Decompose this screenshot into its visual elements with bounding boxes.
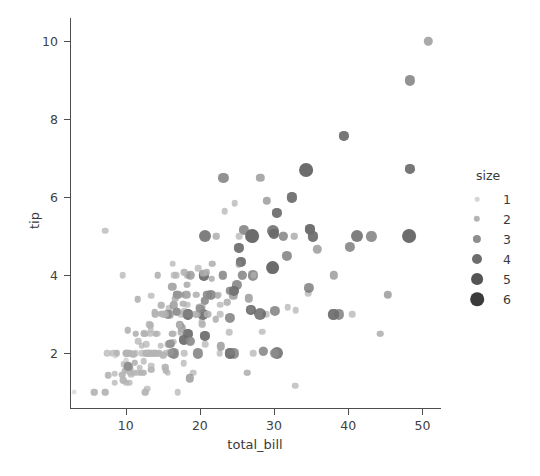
scatter-point	[136, 365, 143, 372]
scatter-point	[213, 233, 220, 240]
y-tick-mark	[64, 353, 70, 354]
scatter-point	[282, 251, 292, 261]
legend-entry[interactable]: 4	[462, 249, 532, 269]
scatter-point	[193, 291, 200, 298]
scatter-point	[111, 379, 118, 386]
scatter-point	[256, 174, 264, 182]
scatter-point	[272, 208, 282, 218]
scatter-point	[344, 242, 354, 252]
legend-marker-icon	[470, 292, 484, 306]
scatter-point	[156, 350, 163, 357]
scatter-point	[180, 301, 187, 308]
scatter-point	[160, 311, 167, 318]
scatter-point	[106, 372, 113, 379]
scatter-point	[162, 311, 169, 318]
legend-entry[interactable]: 1	[462, 189, 532, 209]
scatter-point	[162, 364, 169, 371]
scatter-point	[122, 367, 129, 374]
y-tick-label: 8	[0, 112, 58, 127]
scatter-point	[134, 296, 141, 303]
scatter-point	[180, 360, 187, 367]
scatter-point	[200, 331, 210, 341]
scatter-point	[141, 370, 148, 377]
scatter-point	[181, 350, 188, 357]
scatter-point	[104, 372, 111, 379]
scatter-point	[235, 261, 242, 268]
scatter-point	[208, 275, 215, 282]
scatter-point	[126, 379, 133, 386]
scatter-point	[205, 311, 212, 318]
scatter-point	[166, 340, 174, 348]
scatter-point	[153, 331, 160, 338]
scatter-point	[339, 131, 349, 141]
y-axis-label: tip	[27, 181, 42, 261]
scatter-point	[208, 275, 215, 282]
scatter-point	[228, 349, 235, 356]
scatter-point	[148, 292, 155, 299]
scatter-point	[173, 307, 181, 315]
scatter-point	[151, 350, 158, 357]
scatter-point	[328, 309, 338, 319]
scatter-point	[167, 350, 174, 357]
scatter-point	[308, 231, 318, 241]
x-tick-mark	[348, 409, 349, 415]
scatter-point	[147, 322, 154, 329]
scatter-point	[235, 261, 242, 268]
scatter-point	[165, 370, 172, 377]
scatter-point	[160, 352, 167, 359]
scatter-point	[165, 341, 172, 348]
scatter-point	[146, 350, 153, 357]
scatter-point	[236, 257, 246, 267]
legend-entry[interactable]: 3	[462, 229, 532, 249]
scatter-point	[351, 230, 363, 242]
scatter-point	[181, 269, 188, 276]
scatter-point	[217, 311, 224, 318]
scatter-point	[216, 350, 223, 357]
x-tick-mark	[422, 409, 423, 415]
scatter-point	[120, 377, 127, 384]
scatter-point	[130, 351, 137, 358]
scatter-point	[248, 270, 258, 280]
scatter-point	[124, 358, 129, 363]
x-tick-label: 30	[266, 418, 282, 433]
scatter-point	[173, 307, 181, 315]
scatter-point	[113, 350, 120, 357]
scatter-point	[125, 350, 132, 357]
scatter-point	[305, 225, 315, 235]
legend-entry-label: 5	[503, 272, 511, 287]
scatter-point	[142, 331, 149, 338]
scatter-point	[199, 321, 206, 328]
scatter-point	[199, 321, 206, 328]
scatter-point	[148, 326, 155, 333]
scatter-point	[186, 337, 194, 345]
scatter-point	[163, 367, 170, 374]
scatter-point	[225, 312, 235, 322]
scatter-point	[193, 348, 203, 358]
x-tick-label: 50	[414, 418, 430, 433]
scatter-point	[143, 350, 150, 357]
legend-entry[interactable]: 6	[462, 289, 532, 309]
scatter-point	[147, 331, 154, 338]
scatter-point	[178, 292, 185, 299]
scatter-point	[158, 310, 165, 317]
scatter-point	[184, 311, 191, 318]
legend-entry[interactable]: 2	[462, 209, 532, 229]
scatter-point	[219, 271, 227, 279]
scatter-point	[151, 350, 158, 357]
scatter-point	[178, 329, 185, 336]
scatter-point	[137, 370, 144, 377]
scatter-point	[132, 359, 139, 366]
scatter-point	[172, 296, 179, 303]
scatter-point	[186, 337, 194, 345]
legend-entry[interactable]: 5	[462, 269, 532, 289]
scatter-point	[212, 316, 219, 323]
scatter-point	[251, 272, 258, 279]
scatter-point	[217, 342, 225, 350]
scatter-point	[193, 291, 200, 298]
scatter-point	[167, 350, 174, 357]
scatter-point	[186, 271, 194, 279]
scatter-point	[206, 290, 216, 300]
scatter-point	[123, 350, 130, 357]
scatter-point	[169, 331, 176, 338]
scatter-point	[152, 309, 159, 316]
